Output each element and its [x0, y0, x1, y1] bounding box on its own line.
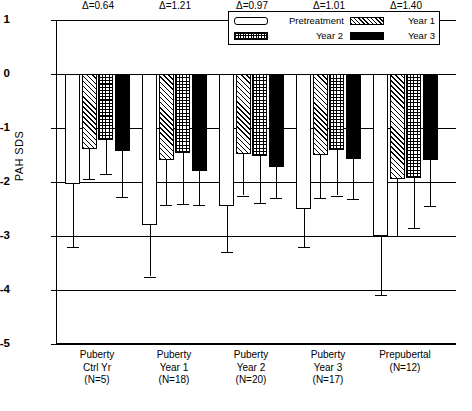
error-bar-cap	[83, 179, 95, 180]
x-axis-label: Prepubertal(N=12)	[360, 349, 450, 374]
bar-pre	[142, 74, 157, 225]
y-axis-title: PAH SDS	[13, 111, 25, 201]
error-bar-cap	[254, 203, 266, 204]
error-bar	[89, 149, 90, 179]
bar-y2	[252, 74, 267, 156]
error-bar	[304, 209, 305, 247]
x-label-line: (N=12)	[360, 362, 450, 375]
bar-group: Δ=0.64	[61, 20, 135, 344]
error-bar	[430, 160, 431, 206]
bar-pre	[296, 74, 311, 209]
error-bar	[227, 206, 228, 252]
error-bar	[106, 140, 107, 174]
y-tick-1	[51, 20, 57, 21]
error-bar	[320, 155, 321, 198]
y-tick--4	[51, 290, 57, 291]
bar-group: Δ=1.21	[138, 20, 212, 344]
bar-y1	[390, 74, 405, 179]
error-bar	[337, 150, 338, 196]
bar-y2	[98, 74, 113, 140]
error-bar-cap	[67, 247, 79, 248]
error-bar	[243, 154, 244, 196]
error-bar-cap	[347, 199, 359, 200]
bar-y2	[406, 74, 421, 178]
error-bar	[381, 236, 382, 295]
x-label-line: (N=17)	[283, 374, 373, 387]
error-bar	[122, 151, 123, 197]
y-tick-label--2: -2	[0, 176, 10, 188]
error-bar-cap	[193, 205, 205, 206]
bar-y1	[82, 74, 97, 149]
y-tick-label-1: 1	[0, 14, 10, 26]
bar-y2	[175, 74, 190, 153]
error-bar-cap	[237, 196, 249, 197]
plot-area: Δ=0.64Δ=1.21Δ=0.97Δ=1.01Δ=1.40	[56, 20, 456, 344]
error-bar-cap	[314, 198, 326, 199]
bar-pre	[373, 74, 388, 236]
error-bar	[276, 167, 277, 198]
y-tick-label--4: -4	[0, 284, 10, 296]
y-tick-label--5: -5	[0, 338, 10, 350]
error-bar-cap	[298, 247, 310, 248]
legend-label: Year 3	[395, 30, 439, 41]
bar-y1	[313, 74, 328, 155]
bar-pre	[65, 74, 80, 184]
delta-annotation: Δ=0.97	[215, 0, 289, 11]
error-bar-cap	[375, 295, 387, 296]
swatch-diagonal-icon	[350, 17, 384, 25]
error-bar	[150, 225, 151, 276]
error-bar-cap	[116, 197, 128, 198]
error-bar	[166, 160, 167, 205]
bar-y1	[236, 74, 251, 154]
error-bar	[260, 156, 261, 202]
y-tick--2	[51, 182, 57, 183]
y-tick-label--3: -3	[0, 230, 10, 242]
error-bar	[414, 178, 415, 228]
pah-sds-bar-chart: PAH SDS Δ=0.64Δ=1.21Δ=0.97Δ=1.01Δ=1.40 P…	[0, 0, 472, 411]
bar-group: Δ=1.40	[369, 20, 443, 344]
bar-group: Δ=1.01	[292, 20, 366, 344]
error-bar	[183, 153, 184, 203]
bar-group: Δ=0.97	[215, 20, 289, 344]
delta-annotation: Δ=0.64	[61, 0, 135, 11]
chart-legend: PretreatmentYear 1Year 2Year 3	[228, 11, 440, 45]
y-tick--3	[51, 236, 57, 237]
swatch-white-icon	[234, 17, 268, 25]
bar-y3	[423, 74, 438, 160]
error-bar	[353, 159, 354, 199]
error-bar	[73, 184, 74, 247]
y-tick--1	[51, 128, 57, 129]
y-tick-label--1: -1	[0, 122, 10, 134]
error-bar-cap	[100, 174, 112, 175]
bar-pre	[219, 74, 234, 206]
error-bar-cap	[160, 205, 172, 206]
legend-label: Pretreatment	[289, 15, 347, 26]
error-bar-cap	[408, 228, 420, 229]
delta-annotation: Δ=1.21	[138, 0, 212, 11]
bar-y3	[269, 74, 284, 167]
legend-label: Year 2	[289, 30, 347, 41]
y-tick-label-0: 0	[0, 68, 10, 80]
bar-y1	[159, 74, 174, 160]
bar-y3	[346, 74, 361, 159]
error-bar-cap	[144, 277, 156, 278]
bar-y3	[192, 74, 207, 171]
swatch-solid-black-icon	[350, 32, 384, 40]
delta-annotation: Δ=1.40	[369, 0, 443, 11]
y-tick-0	[51, 74, 57, 75]
error-bar	[397, 179, 398, 236]
bar-y3	[115, 74, 130, 151]
error-bar-cap	[331, 196, 343, 197]
error-bar-cap	[270, 198, 282, 199]
error-bar-cap	[177, 204, 189, 205]
legend-label: Year 1	[395, 15, 439, 26]
swatch-checkerboard-icon	[234, 32, 268, 40]
error-bar-cap	[221, 252, 233, 253]
error-bar-cap	[424, 206, 436, 207]
bar-y2	[329, 74, 344, 150]
error-bar	[199, 171, 200, 204]
delta-annotation: Δ=1.01	[292, 0, 366, 11]
error-bar-cap	[391, 236, 403, 237]
x-label-line: Prepubertal	[360, 349, 450, 362]
gridline--5	[57, 344, 456, 345]
